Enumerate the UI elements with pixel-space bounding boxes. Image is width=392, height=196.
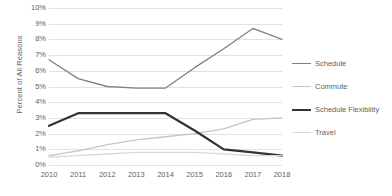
y-tick-label: 2%: [22, 130, 46, 138]
legend-label: Schedule: [315, 59, 346, 68]
y-tick-label: 1%: [22, 145, 46, 153]
line-chart: Percent of All Reasons 0%1%2%3%4%5%6%7%8…: [0, 0, 392, 196]
series-line: [49, 28, 282, 88]
series-lines: [49, 8, 282, 165]
series-line: [49, 152, 282, 157]
legend-item[interactable]: Schedule Flexibility: [292, 98, 392, 121]
x-tick-label: 2013: [121, 170, 151, 180]
legend-item[interactable]: Schedule: [292, 52, 392, 75]
legend: ScheduleCommuteSchedule FlexibilityTrave…: [292, 52, 392, 144]
legend-label: Commute: [315, 82, 348, 91]
y-tick-label: 4%: [22, 98, 46, 106]
y-axis-tick-labels: 0%1%2%3%4%5%6%7%8%9%10%: [22, 0, 46, 196]
x-tick-label: 2011: [63, 170, 93, 180]
y-tick-label: 10%: [22, 4, 46, 12]
legend-label: Travel: [315, 128, 336, 137]
series-line: [49, 118, 282, 156]
x-tick-label: 2012: [92, 170, 122, 180]
legend-swatch-icon: [292, 109, 311, 111]
y-tick-label: 6%: [22, 67, 46, 75]
y-tick-label: 9%: [22, 20, 46, 28]
legend-item[interactable]: Commute: [292, 75, 392, 98]
legend-swatch-icon: [292, 63, 311, 64]
y-tick-label: 7%: [22, 51, 46, 59]
gridline: [49, 165, 282, 166]
legend-swatch-icon: [292, 132, 311, 133]
y-tick-label: 8%: [22, 35, 46, 43]
legend-swatch-icon: [292, 86, 311, 87]
x-tick-label: 2016: [209, 170, 239, 180]
plot-area: [49, 8, 282, 165]
y-tick-label: 0%: [22, 161, 46, 169]
legend-label: Schedule Flexibility: [315, 105, 379, 114]
legend-item[interactable]: Travel: [292, 121, 392, 144]
y-tick-label: 3%: [22, 114, 46, 122]
x-tick-label: 2017: [238, 170, 268, 180]
x-axis-tick-labels: 201020112012201320142015201620172018: [49, 170, 282, 186]
x-tick-label: 2015: [180, 170, 210, 180]
x-tick-label: 2018: [267, 170, 297, 180]
x-tick-label: 2014: [151, 170, 181, 180]
x-tick-label: 2010: [34, 170, 64, 180]
y-tick-label: 5%: [22, 83, 46, 91]
